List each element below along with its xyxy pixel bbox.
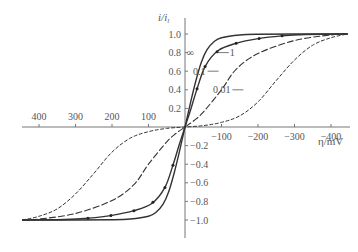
y-tick-label: −0.6 bbox=[190, 177, 208, 188]
curve-label: ∞ bbox=[187, 47, 194, 58]
y-axis-title: i/il bbox=[158, 11, 169, 25]
y-tick-label: −0.8 bbox=[190, 196, 208, 207]
curve-marker bbox=[258, 37, 261, 40]
curve-label: 1 bbox=[230, 47, 235, 58]
y-tick-label: −0.4 bbox=[190, 159, 208, 170]
x-tick-label: 200 bbox=[105, 111, 120, 122]
curve-label: 0.1 bbox=[193, 66, 206, 77]
curve-marker bbox=[163, 186, 166, 189]
y-tick-label: 0.6 bbox=[169, 66, 182, 77]
x-tick-label: 400 bbox=[32, 111, 47, 122]
curve-label: 0.01 bbox=[213, 84, 231, 95]
x-tick-label: −200 bbox=[248, 131, 269, 142]
x-tick-label: −300 bbox=[284, 131, 305, 142]
x-tick-label: −100 bbox=[211, 131, 232, 142]
x-axis-title: η/mV bbox=[318, 135, 343, 147]
curve-marker bbox=[171, 164, 174, 167]
y-tick-label: −0.2 bbox=[190, 140, 208, 151]
y-tick-label: 0.4 bbox=[169, 84, 182, 95]
curve-marker bbox=[109, 214, 112, 217]
y-tick-label: 1.0 bbox=[169, 29, 182, 40]
x-tick-label: 300 bbox=[68, 111, 83, 122]
y-tick-label: 0.8 bbox=[169, 47, 182, 58]
curve-marker bbox=[132, 209, 135, 212]
curve-marker bbox=[86, 217, 89, 220]
curve-marker bbox=[196, 87, 199, 90]
curve-marker bbox=[281, 34, 284, 37]
y-tick-label: 0.2 bbox=[169, 103, 182, 114]
current-overpotential-chart: 400300200100−100−200−300−4001.00.80.60.4… bbox=[0, 0, 358, 252]
x-tick-label: 100 bbox=[141, 111, 156, 122]
curve-marker bbox=[235, 42, 238, 45]
y-axis-title-subscript: l bbox=[167, 17, 169, 25]
curve-marker bbox=[151, 201, 154, 204]
y-tick-label: −1.0 bbox=[190, 215, 208, 226]
